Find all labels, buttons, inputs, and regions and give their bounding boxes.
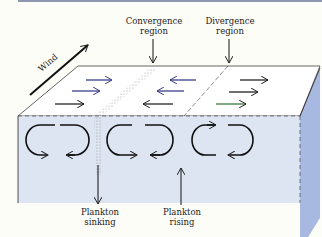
rising-label: Plankton rising: [152, 207, 212, 227]
divergence-label: Divergence region: [195, 16, 265, 36]
divergence-line-2: region: [195, 26, 265, 36]
rising-line-1: Plankton: [152, 207, 212, 217]
front-face: [18, 116, 300, 203]
sinking-label: Plankton sinking: [70, 207, 130, 227]
rising-line-2: rising: [152, 217, 212, 227]
convergence-label: Convergence region: [118, 16, 190, 36]
sinking-line-2: sinking: [70, 217, 130, 227]
sinking-line-1: Plankton: [70, 207, 130, 217]
convergence-line-2: region: [118, 26, 190, 36]
divergence-line-1: Divergence: [195, 16, 265, 26]
convergence-line-1: Convergence: [118, 16, 190, 26]
